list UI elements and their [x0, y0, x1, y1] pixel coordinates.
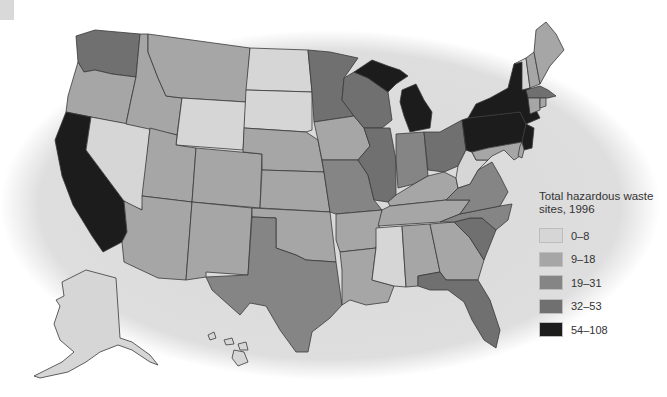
legend-title: Total hazardous waste sites, 1996 — [539, 190, 664, 216]
legend-swatch — [539, 299, 563, 314]
legend-label: 9–18 — [571, 253, 595, 265]
state-north-dakota — [246, 48, 312, 92]
legend-swatch — [539, 252, 563, 267]
legend-swatch — [539, 228, 563, 243]
legend-swatch — [539, 275, 563, 290]
legend-item: 0–8 — [539, 224, 664, 248]
state-kansas — [260, 170, 330, 212]
legend-label: 19–31 — [571, 277, 602, 289]
legend-item: 9–18 — [539, 248, 664, 272]
state-wyoming — [176, 98, 246, 150]
legend-swatch — [539, 322, 563, 337]
legend-label: 0–8 — [571, 230, 589, 242]
legend-title-line2: sites, 1996 — [539, 203, 664, 216]
legend-title-line1: Total hazardous waste — [539, 190, 664, 203]
legend-item: 32–53 — [539, 295, 664, 319]
state-south-dakota — [244, 90, 312, 132]
state-arkansas — [336, 210, 382, 252]
legend-label: 54–108 — [571, 324, 608, 336]
legend-item: 19–31 — [539, 271, 664, 295]
state-colorado — [192, 148, 262, 208]
map-legend: Total hazardous waste sites, 1996 0–8 9–… — [539, 190, 664, 342]
legend-label: 32–53 — [571, 300, 602, 312]
state-washington — [76, 30, 140, 77]
state-new-mexico — [186, 202, 252, 280]
legend-item: 54–108 — [539, 318, 664, 342]
state-mississippi — [372, 226, 406, 287]
state-rhode-island — [540, 98, 546, 108]
